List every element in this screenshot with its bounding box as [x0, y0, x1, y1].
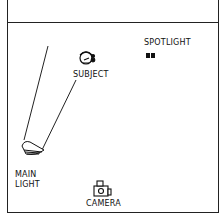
spotlight-icon [146, 53, 155, 58]
camera-icon [94, 181, 111, 196]
subject-label: SUBJECT [73, 70, 109, 79]
main-light-icon [22, 142, 44, 155]
light-beam-icon [24, 46, 76, 150]
subject-head-icon [80, 52, 95, 64]
spotlight-label: SPOTLIGHT [144, 38, 191, 47]
camera-label: CAMERA [86, 199, 121, 208]
main-light-label-line1: MAIN [15, 170, 37, 179]
main-light-label-line2: LIGHT [15, 180, 40, 189]
lighting-diagram [0, 0, 224, 224]
